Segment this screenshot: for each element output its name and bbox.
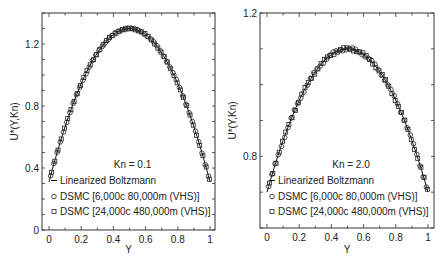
legend-label: Linearized Boltzmann [60,175,156,186]
x-tick-label: 1 [207,234,213,245]
knudsen-annotation: Kn = 2.0 [332,159,370,170]
legend-label: DSMC [6,000c 80,000m (VHS)] [278,191,418,202]
legend-label: DSMC [6,000c 80,000m (VHS)] [60,191,200,202]
right-chart-kn-2-0: 00.20.40.60.810.81.2YU*(Y,Kn)Kn = 2.0Lin… [227,8,434,256]
legend-label: Linearized Boltzmann [278,175,374,186]
legend-label: DSMC [24,000c 480,000m (VHS)] [60,206,211,217]
x-tick-label: 0.4 [106,234,120,245]
figure: 00.20.40.60.8100.40.81.2YU*(Y,Kn)Kn = 0.… [0,0,440,261]
x-tick-label: 0.6 [357,232,371,243]
y-tick-label: 1.2 [25,39,39,50]
legend-circle-icon [52,194,57,199]
y-tick-label: 0 [33,225,39,236]
y-axis-label: U*(Y,Kn) [227,101,238,139]
x-axis-label: Y [344,244,351,255]
x-tick-label: 0.2 [292,232,306,243]
x-tick-label: 0.4 [324,232,338,243]
x-tick-label: 0.6 [139,234,153,245]
x-tick-label: 0.8 [389,232,403,243]
legend: Linearized BoltzmannDSMC [6,000c 80,000m… [269,175,429,217]
y-tick-label: 0.4 [25,163,39,174]
y-tick-label: 0.8 [243,151,257,162]
y-tick-label: 1.2 [243,8,257,19]
knudsen-annotation: Kn = 0.1 [114,159,152,170]
legend-square-icon [52,210,56,214]
x-tick-label: 0 [264,232,270,243]
x-tick-label: 0.2 [74,234,88,245]
y-tick-label: 0.8 [25,101,39,112]
x-tick-label: 1 [425,232,431,243]
legend-circle-icon [270,194,275,199]
legend: Linearized BoltzmannDSMC [6,000c 80,000m… [51,175,211,217]
legend-label: DSMC [24,000c 480,000m (VHS)] [278,206,429,217]
x-axis-label: Y [125,244,132,255]
legend-square-icon [270,210,274,214]
x-tick-label: 0.8 [171,234,185,245]
x-tick-label: 0 [46,234,52,245]
y-axis-label: U*(Y,Kn) [9,102,20,140]
left-chart-kn-0-1: 00.20.40.60.8100.40.81.2YU*(Y,Kn)Kn = 0.… [9,13,215,255]
